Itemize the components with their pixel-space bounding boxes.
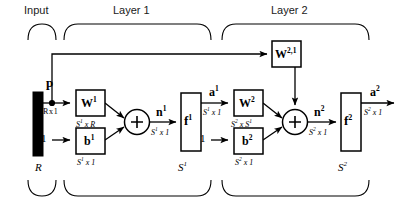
signal-a2-dimension: S2 x 1 xyxy=(364,107,382,117)
region-size-layer1: S1 xyxy=(178,161,187,173)
input-vector-symbol: p xyxy=(46,76,53,89)
input-vector-dimension: R x 1 xyxy=(43,108,58,116)
block-w21-label: W2,1 xyxy=(275,47,296,60)
block-w1-dimension: S1 x R xyxy=(76,119,95,129)
region-size-input: R xyxy=(35,161,42,173)
group-title-input: Input xyxy=(24,5,48,16)
block-b1-label: b1 xyxy=(84,134,94,147)
signal-a1-label: a1 xyxy=(209,85,219,98)
network-diagram: Input Layer 1 Layer 2 p R x 1 1 1 W1 S1 … xyxy=(0,0,407,201)
group-title-layer2: Layer 2 xyxy=(271,5,308,16)
group-brace-layer1 xyxy=(64,24,211,40)
edge-w2-to-sum2 xyxy=(263,103,282,118)
bias2-source-label: 1 xyxy=(200,133,206,144)
group-brace-input-bottom xyxy=(28,180,56,196)
signal-n1-label: n1 xyxy=(156,105,166,118)
region-size-layer2: S2 xyxy=(338,161,347,173)
block-f2-label: f2 xyxy=(344,114,352,127)
edge-b1-to-sum1 xyxy=(105,127,124,140)
input-vector-bar xyxy=(33,92,43,156)
group-title-layer1: Layer 1 xyxy=(113,5,150,16)
group-brace-layer2-bottom xyxy=(222,180,369,196)
block-b1-dimension: S1 x 1 xyxy=(77,157,95,167)
group-brace-layer2 xyxy=(222,24,369,40)
signal-n2-dimension: S2 x 1 xyxy=(309,127,327,137)
signal-a2-label: a2 xyxy=(370,85,380,98)
block-w2-dimension: S2 x S1 xyxy=(231,119,252,129)
block-w1-label: W1 xyxy=(81,96,97,109)
edge-b2-to-sum2 xyxy=(263,127,282,140)
signal-n1-dimension: S1 x 1 xyxy=(151,127,169,137)
bias1-source-label: 1 xyxy=(41,133,47,144)
group-brace-layer1-bottom xyxy=(64,180,211,196)
block-w2-label: W2 xyxy=(239,96,255,109)
signal-n2-label: n2 xyxy=(314,105,324,118)
block-b2-dimension: S2 x 1 xyxy=(235,157,253,167)
block-b2-label: b2 xyxy=(242,134,252,147)
edge-w1-to-sum1 xyxy=(105,103,124,118)
group-brace-input xyxy=(28,24,56,40)
block-f1-label: f1 xyxy=(184,114,192,127)
signal-a1-dimension: S1 x 1 xyxy=(203,107,221,117)
